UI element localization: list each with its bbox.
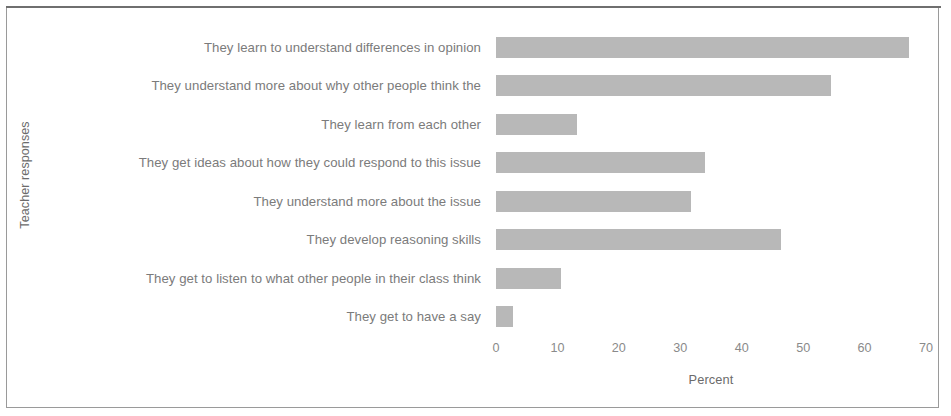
x-axis-tick-label: 60 [845, 341, 885, 355]
bar [496, 306, 513, 327]
bar-row [496, 144, 926, 183]
category-label-row: They learn from each other [40, 105, 488, 144]
x-axis-tick-labels: 010203040506070 [0, 341, 951, 361]
x-axis-title: Percent [496, 372, 926, 387]
bar [496, 191, 691, 212]
x-axis-tick-label: 10 [537, 341, 577, 355]
bar [496, 75, 831, 96]
chart-figure: Teacher responses They learn to understa… [0, 0, 951, 416]
x-axis-tick-label: 30 [660, 341, 700, 355]
bar-row [496, 221, 926, 260]
category-label: They learn from each other [321, 117, 488, 132]
bar [496, 152, 705, 173]
x-axis-tick-label: 70 [906, 341, 946, 355]
category-label: They learn to understand differences in … [204, 40, 488, 55]
bar-row [496, 105, 926, 144]
category-label-row: They get to have a say [40, 298, 488, 337]
bar [496, 268, 561, 289]
bar-row [496, 298, 926, 337]
category-label-row: They understand more about why other peo… [40, 67, 488, 106]
bar-row [496, 182, 926, 221]
bar-row [496, 28, 926, 67]
plot-area: Teacher responses They learn to understa… [0, 0, 951, 416]
bar-row [496, 259, 926, 298]
x-axis-tick-label: 0 [476, 341, 516, 355]
category-label: They develop reasoning skills [307, 232, 488, 247]
category-label-row: They get to listen to what other people … [40, 259, 488, 298]
category-label: They get ideas about how they could resp… [139, 155, 488, 170]
category-label: They get to listen to what other people … [146, 271, 488, 286]
category-label: They understand more about the issue [253, 194, 488, 209]
bar [496, 114, 577, 135]
bar-row [496, 67, 926, 106]
bar [496, 229, 781, 250]
category-label-row: They get ideas about how they could resp… [40, 144, 488, 183]
category-label-row: They understand more about the issue [40, 182, 488, 221]
x-axis-tick-label: 50 [783, 341, 823, 355]
category-label: They get to have a say [346, 309, 488, 324]
x-axis-tick-label: 20 [599, 341, 639, 355]
category-label-row: They learn to understand differences in … [40, 28, 488, 67]
category-label: They understand more about why other peo… [151, 78, 488, 93]
bar [496, 37, 909, 58]
bar-series [496, 28, 926, 336]
category-label-row: They develop reasoning skills [40, 221, 488, 260]
category-label-column: They learn to understand differences in … [40, 28, 488, 336]
x-axis-tick-label: 40 [722, 341, 762, 355]
y-axis-title: Teacher responses [18, 95, 32, 255]
